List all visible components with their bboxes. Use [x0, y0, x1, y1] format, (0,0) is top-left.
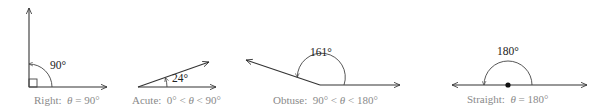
obtuse-angle-left-ray	[246, 60, 320, 85]
right-angle-caption: Right: θ = 90°	[34, 94, 100, 106]
acute-angle-arc	[165, 78, 167, 87]
acute-angle-measure: 24°	[172, 72, 189, 84]
acute-angle-caption: Acute: 0° < θ < 90°	[132, 94, 221, 106]
straight-angle-measure: 180°	[497, 45, 519, 57]
obtuse-angle-diagram: 161° Obtuse: 90° < θ < 180°	[246, 46, 400, 106]
straight-angle-diagram: 180° Straight: θ = 180°	[452, 45, 587, 105]
right-angle-square-mark	[29, 79, 37, 87]
acute-angle-diagram: 24° Acute: 0° < θ < 90°	[132, 62, 221, 106]
angle-types-figure: 90° Right: θ = 90° 24° Acute: 0° < θ < 9…	[0, 0, 609, 110]
obtuse-angle-caption: Obtuse: 90° < θ < 180°	[273, 94, 378, 106]
straight-angle-arc	[484, 61, 532, 85]
obtuse-angle-measure: 161°	[310, 46, 332, 58]
straight-angle-caption: Straight: θ = 180°	[467, 93, 548, 105]
right-angle-diagram: 90° Right: θ = 90°	[29, 8, 107, 106]
right-angle-arc	[29, 64, 52, 87]
straight-angle-vertex-dot	[505, 82, 510, 87]
right-angle-measure: 90°	[50, 59, 67, 71]
